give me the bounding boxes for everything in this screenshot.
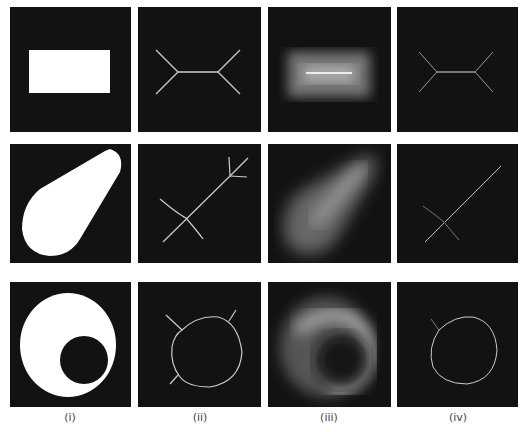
panel-r2-distance bbox=[268, 144, 391, 263]
rectangle-thin-skeleton bbox=[397, 7, 518, 132]
panel-r1-distance bbox=[268, 7, 391, 132]
teardrop-thin-skeleton bbox=[397, 144, 518, 263]
rectangle-shape bbox=[10, 7, 131, 132]
disk-with-hole-distance-map bbox=[268, 282, 391, 407]
panel-r1-thinned bbox=[397, 7, 518, 132]
panel-r2-thinned bbox=[397, 144, 518, 263]
column-label-ii: (ii) bbox=[170, 411, 230, 424]
rectangle-distance-map bbox=[268, 7, 391, 132]
teardrop-shape bbox=[10, 144, 131, 263]
panel-r3-distance bbox=[268, 282, 391, 407]
teardrop-distance-map bbox=[268, 144, 391, 263]
panel-r3-skeleton bbox=[138, 282, 261, 407]
panel-r3-thinned bbox=[397, 282, 518, 407]
panel-r3-shape bbox=[10, 282, 131, 407]
disk-with-hole-shape bbox=[10, 282, 131, 407]
column-label-i: (i) bbox=[40, 411, 100, 424]
column-label-iii: (iii) bbox=[299, 411, 359, 424]
panel-r2-shape bbox=[10, 144, 131, 263]
panel-r2-skeleton bbox=[138, 144, 261, 263]
panel-r1-shape bbox=[10, 7, 131, 132]
panel-r1-skeleton bbox=[138, 7, 261, 132]
rectangle-skeleton bbox=[138, 7, 261, 132]
column-label-iv: (iv) bbox=[428, 411, 488, 424]
teardrop-skeleton bbox=[138, 144, 261, 263]
disk-with-hole-thin-skeleton bbox=[397, 282, 518, 407]
disk-with-hole-skeleton bbox=[138, 282, 261, 407]
